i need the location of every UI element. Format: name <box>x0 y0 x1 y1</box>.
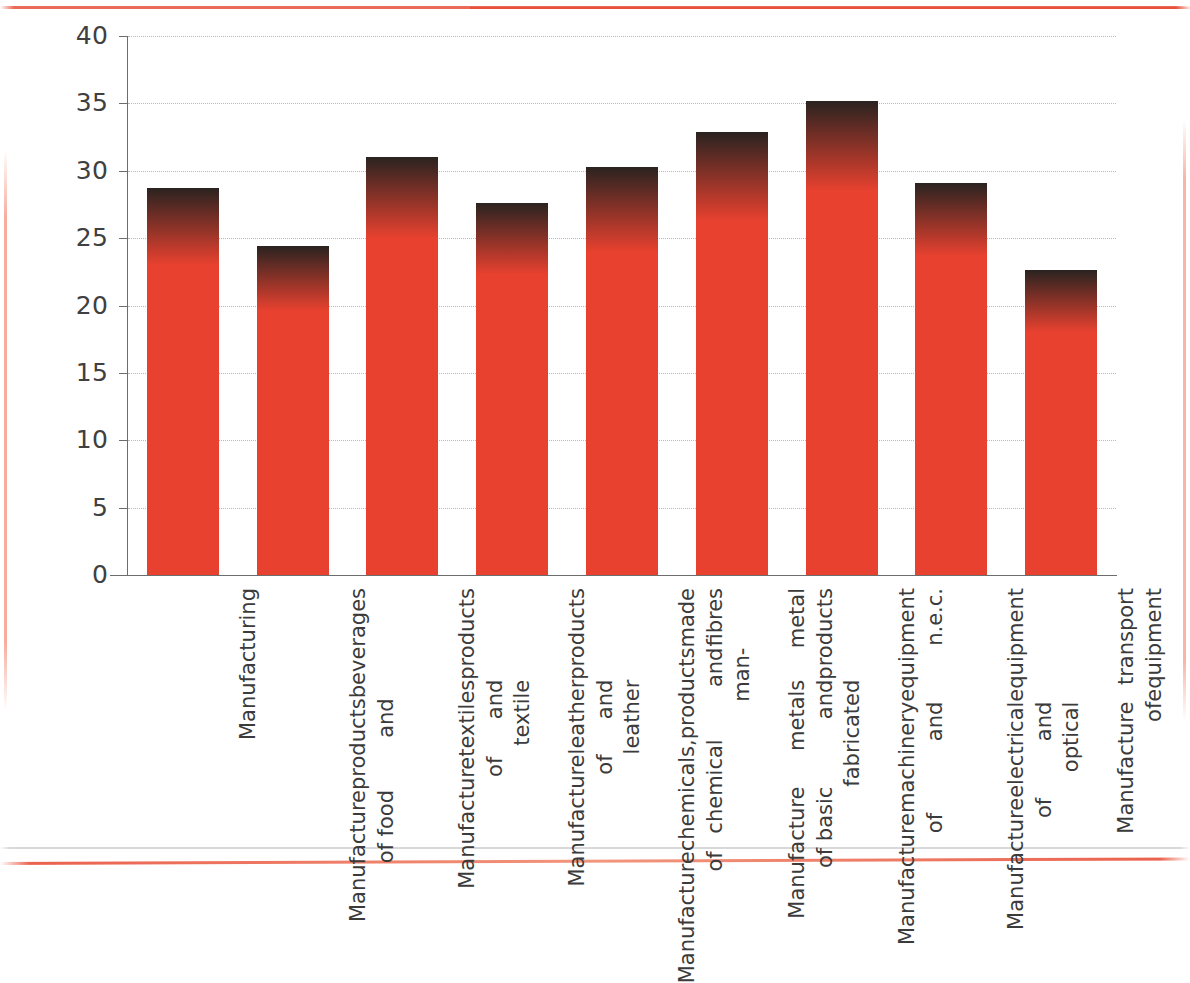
bar[interactable] <box>696 132 768 575</box>
bar-fill <box>915 183 987 575</box>
x-axis-label-line: made fibres <box>674 588 729 648</box>
x-axis-label-line: products and man- <box>674 648 757 740</box>
x-axis-label-line: Manufacturing <box>235 588 263 828</box>
x-axis-label-line: Manufacture of <box>1113 702 1168 834</box>
x-axis-label: Manufacture ofchemicals, chemicalproduct… <box>674 588 778 828</box>
y-tick-15 <box>119 373 128 374</box>
x-axis-label-line: Manufacture of <box>454 757 509 889</box>
x-axis-label-line: products <box>454 588 482 680</box>
bar[interactable] <box>915 183 987 575</box>
bar[interactable] <box>586 167 658 575</box>
bar[interactable] <box>147 188 219 575</box>
x-axis-label: Manufacture of basicmetals and fabricate… <box>784 588 888 828</box>
bar-fill <box>586 167 658 575</box>
bar-fill <box>366 157 438 575</box>
x-axis-line <box>110 575 1117 576</box>
bar[interactable] <box>366 157 438 575</box>
bar[interactable] <box>1025 270 1097 575</box>
y-tick-0 <box>119 575 128 576</box>
x-axis-label-line: metals and fabricated <box>784 680 867 787</box>
y-tick-label-0: 0 <box>48 562 108 587</box>
x-axis-label-line: Manufacture of food <box>345 790 400 922</box>
bar-fill <box>257 246 329 575</box>
y-tick-label-35: 35 <box>48 90 108 115</box>
bar[interactable] <box>476 203 548 575</box>
x-axis-label: Manufacture oftransport equipment <box>1113 588 1190 828</box>
x-axis-label-line: beverages <box>345 588 373 698</box>
x-axis-label: Manufacture of foodproducts andbeverages <box>345 588 449 828</box>
bar[interactable] <box>257 246 329 575</box>
y-tick-label-20: 20 <box>48 293 108 318</box>
y-tick-35 <box>119 103 128 104</box>
x-axis-label-line: electrical and optical <box>1003 702 1086 798</box>
y-tick-30 <box>119 171 128 172</box>
x-axis-label-line: metal products <box>784 588 839 680</box>
x-axis-label-line: transport equipment <box>1113 588 1168 702</box>
y-tick-40 <box>119 36 128 37</box>
bar[interactable] <box>806 101 878 575</box>
bar-fill <box>806 101 878 575</box>
x-axis-label-line: Manufacture of <box>564 754 619 886</box>
y-tick-5 <box>119 508 128 509</box>
x-axis-label: Manufacture ofmachinery andequipment n.e… <box>894 588 998 828</box>
x-axis-label-line: Manufacture of basic <box>784 787 839 919</box>
y-tick-label-5: 5 <box>48 495 108 520</box>
bar-fill <box>476 203 548 575</box>
x-axis-label-line: machinery and <box>894 702 949 813</box>
x-axis-label: Manufacturing <box>235 588 339 828</box>
gridline-35 <box>128 103 1116 104</box>
x-axis-label-line: equipment <box>1003 588 1031 702</box>
x-axis-label: Manufacture ofleather and leatherproduct… <box>564 588 668 828</box>
x-axis-label-line: Manufacture of <box>1003 798 1058 930</box>
x-axis-label: Manufacture oftextiles and textileproduc… <box>454 588 558 828</box>
y-tick-label-10: 10 <box>48 427 108 452</box>
x-axis-label-line: equipment n.e.c. <box>894 588 949 702</box>
plot-area <box>128 36 1116 575</box>
y-tick-label-30: 30 <box>48 158 108 183</box>
y-tick-20 <box>119 306 128 307</box>
x-axis-label-line: products and <box>345 698 400 790</box>
x-axis-label-line: products <box>564 588 592 680</box>
bar-fill <box>696 132 768 575</box>
bar-fill <box>147 188 219 575</box>
x-axis-label-line: Manufacture of <box>894 813 949 945</box>
y-tick-label-40: 40 <box>48 23 108 48</box>
x-axis-label-line: leather and leather <box>564 680 647 755</box>
y-tick-label-25: 25 <box>48 225 108 250</box>
x-axis-label-line: chemicals, chemical <box>674 739 729 851</box>
y-tick-label-15: 15 <box>48 360 108 385</box>
x-axis-label: Manufacture ofelectrical and opticalequi… <box>1003 588 1107 828</box>
y-tick-10 <box>119 440 128 441</box>
y-tick-25 <box>119 238 128 239</box>
x-axis-label-line: textiles and textile <box>454 680 537 757</box>
bar-fill <box>1025 270 1097 575</box>
x-axis-label-line: Manufacture of <box>674 851 729 983</box>
gridline-40 <box>128 36 1116 37</box>
